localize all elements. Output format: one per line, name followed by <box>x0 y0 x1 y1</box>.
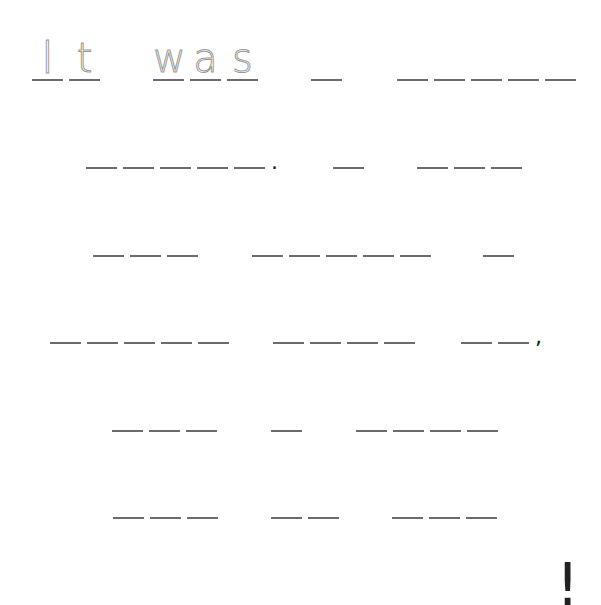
letter-blank[interactable] <box>289 209 320 257</box>
blank-word <box>252 209 431 257</box>
letter-blank[interactable] <box>310 296 341 344</box>
letter-blank[interactable] <box>333 121 364 169</box>
blank-line <box>252 255 283 257</box>
letter-blank[interactable] <box>545 33 576 81</box>
blank-line <box>186 430 217 432</box>
blank-line <box>86 167 117 169</box>
blank-line <box>112 430 143 432</box>
letter-blank[interactable] <box>186 384 217 432</box>
letter-blank[interactable] <box>167 209 198 257</box>
letter-blank[interactable] <box>113 471 144 519</box>
trace-word: It <box>32 33 100 81</box>
blank-word <box>311 33 342 81</box>
letter-blank[interactable] <box>434 33 465 81</box>
letter-blank[interactable] <box>392 471 423 519</box>
letter-blank[interactable] <box>429 471 460 519</box>
blank-line <box>471 79 502 81</box>
blank-word <box>50 296 229 344</box>
letter-blank[interactable] <box>234 121 265 169</box>
blank-line <box>363 255 394 257</box>
letter-blank[interactable] <box>160 121 191 169</box>
blank-line <box>347 342 378 344</box>
letter-blank[interactable] <box>161 296 192 344</box>
blank-line <box>466 517 497 519</box>
letter-blank[interactable] <box>123 121 154 169</box>
blank-line <box>384 342 415 344</box>
letter-blank[interactable] <box>347 296 378 344</box>
letter-blank[interactable] <box>393 384 424 432</box>
blank-line <box>273 342 304 344</box>
blank-line <box>417 167 448 169</box>
letter-blank[interactable] <box>187 471 218 519</box>
letter-blank[interactable] <box>197 121 228 169</box>
letter-blank[interactable] <box>271 471 302 519</box>
blank-line <box>545 79 576 81</box>
letter-blank[interactable] <box>461 296 492 344</box>
blank-word <box>113 471 218 519</box>
letter-blank[interactable] <box>124 296 155 344</box>
blank-line <box>271 517 302 519</box>
letter-blank[interactable] <box>498 296 529 344</box>
letter-blank[interactable] <box>311 33 342 81</box>
letter-blank[interactable] <box>273 296 304 344</box>
trace-word: was <box>153 33 258 81</box>
letter-blank[interactable] <box>198 296 229 344</box>
blank-line <box>124 342 155 344</box>
letter-blank[interactable] <box>356 384 387 432</box>
blank-line <box>467 430 498 432</box>
letter-blank[interactable] <box>397 33 428 81</box>
letter-blank[interactable] <box>471 33 502 81</box>
letter-blank[interactable] <box>86 121 117 169</box>
letter-blank[interactable] <box>491 121 522 169</box>
blank-word <box>461 296 529 344</box>
letter-blank[interactable] <box>87 296 118 344</box>
letter-blank[interactable] <box>130 209 161 257</box>
letter-blank[interactable] <box>467 384 498 432</box>
letter-blank[interactable] <box>149 384 180 432</box>
blank-word <box>93 209 198 257</box>
blank-line <box>87 342 118 344</box>
blank-line <box>167 255 198 257</box>
letter-blank[interactable] <box>252 209 283 257</box>
blank-line <box>483 255 514 257</box>
letter-blank[interactable] <box>93 209 124 257</box>
blank-line <box>491 167 522 169</box>
exclamation-mark: ! <box>556 556 579 605</box>
blank-line <box>190 79 221 81</box>
blank-line <box>227 79 258 81</box>
letter-blank[interactable] <box>271 384 302 432</box>
blank-line <box>153 79 184 81</box>
blank-line <box>310 342 341 344</box>
letter-blank[interactable] <box>363 209 394 257</box>
blank-line <box>160 167 191 169</box>
blank-line <box>326 255 357 257</box>
letter-blank[interactable] <box>326 209 357 257</box>
trace-letter-cell: t <box>69 33 100 81</box>
blank-line <box>461 342 492 344</box>
letter-blank[interactable] <box>150 471 181 519</box>
letter-blank[interactable] <box>508 33 539 81</box>
letter-blank[interactable] <box>400 209 431 257</box>
comma-mark: , <box>535 326 542 348</box>
letter-blank[interactable] <box>50 296 81 344</box>
blank-line <box>429 517 460 519</box>
letter-blank[interactable] <box>112 384 143 432</box>
letter-blank[interactable] <box>430 384 461 432</box>
letter-blank[interactable] <box>308 471 339 519</box>
trace-letter: s <box>227 36 258 80</box>
letter-blank[interactable] <box>384 296 415 344</box>
blank-line <box>508 79 539 81</box>
blank-word <box>392 471 497 519</box>
blank-word <box>356 384 498 432</box>
blank-line <box>454 167 485 169</box>
trace-letter-cell: s <box>227 33 258 81</box>
blank-line <box>32 79 63 81</box>
letter-blank[interactable] <box>417 121 448 169</box>
letter-blank[interactable] <box>466 471 497 519</box>
blank-line <box>356 430 387 432</box>
trace-letter: t <box>69 36 100 80</box>
blank-line <box>130 255 161 257</box>
trace-letter: w <box>153 36 184 80</box>
letter-blank[interactable] <box>454 121 485 169</box>
letter-blank[interactable] <box>483 209 514 257</box>
